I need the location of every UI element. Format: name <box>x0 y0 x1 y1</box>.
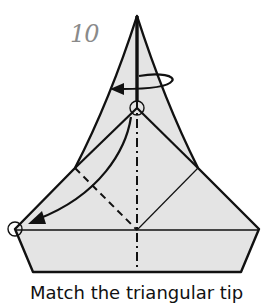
origami-step-diagram: 10 Match the triangular tip <box>0 0 275 306</box>
step-number: 10 <box>70 20 99 48</box>
instruction-caption: Match the triangular tip <box>30 282 243 303</box>
